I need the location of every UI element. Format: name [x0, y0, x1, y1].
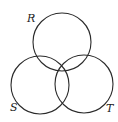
set-t-circle: [55, 55, 113, 113]
set-t-label: T: [106, 102, 115, 115]
set-s-label: S: [10, 101, 18, 114]
set-r-circle: [33, 13, 91, 71]
set-r-label: R: [26, 12, 35, 25]
set-s-circle: [11, 56, 69, 114]
venn-diagram: R S T: [0, 0, 118, 122]
